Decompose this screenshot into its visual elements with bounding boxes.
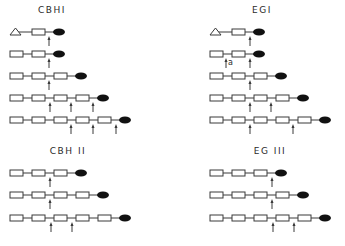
oligomer-row [210, 95, 309, 113]
glucose-unit-box [210, 95, 223, 101]
arrow-head [49, 177, 52, 181]
oligomer-row [10, 73, 87, 91]
glucose-unit-box [54, 170, 67, 176]
glucose-unit-box [254, 95, 267, 101]
oligomer-row [10, 95, 109, 113]
glucose-unit-box [32, 192, 45, 198]
glucose-unit-box [210, 170, 223, 176]
oligomer-row [210, 192, 309, 210]
arrow-head [272, 222, 275, 226]
panel-title: EGI [252, 5, 272, 15]
glucose-unit-box [276, 117, 289, 123]
arrow-head [293, 222, 296, 226]
cleavage-arrow-icon [70, 102, 73, 112]
arrow-head [70, 102, 73, 106]
panel-eg1 [210, 28, 331, 134]
glucose-unit-box [10, 215, 23, 221]
arrow-head [70, 124, 73, 128]
glucose-unit-box [210, 192, 223, 198]
cellulase-cleavage-diagram [0, 0, 345, 246]
oligomer-row [10, 117, 131, 135]
glucose-unit-box [76, 95, 89, 101]
cleavage-arrow-icon [92, 102, 95, 112]
arrow-head [249, 124, 252, 128]
cleavage-arrow-icon [50, 222, 53, 232]
reducing-end-icon [275, 73, 287, 80]
arrow-label: a [228, 58, 233, 67]
glucose-unit-box [10, 192, 23, 198]
reducing-end-icon [253, 29, 265, 36]
arrow-head [50, 222, 53, 226]
reducing-end-icon [53, 29, 65, 36]
oligomer-row [210, 170, 287, 188]
reducing-end-icon [297, 192, 309, 199]
glucose-unit-box [298, 215, 311, 221]
glucose-unit-box [10, 73, 23, 79]
glucose-unit-box [10, 95, 23, 101]
glucose-unit-box [54, 215, 67, 221]
glucose-unit-box [210, 51, 223, 57]
panel-eg3 [210, 170, 331, 233]
glucose-unit-box [276, 192, 289, 198]
reducing-end-icon [297, 95, 309, 102]
glucose-unit-box [254, 215, 267, 221]
cleavage-arrow-icon [249, 58, 252, 68]
glucose-unit-box [10, 51, 23, 57]
cleavage-arrow-icon [49, 199, 52, 209]
cleavage-arrow-icon [271, 177, 274, 187]
reducing-end-icon [53, 51, 65, 58]
reducing-end-icon [75, 73, 87, 80]
arrow-head [292, 124, 295, 128]
cleavage-arrow-icon [249, 124, 252, 134]
oligomer-row [210, 28, 265, 46]
glucose-unit-box [210, 215, 223, 221]
reducing-end-icon [253, 51, 265, 58]
cleavage-arrow-icon [71, 222, 74, 232]
oligomer-row [10, 192, 109, 210]
glucose-unit-box [98, 215, 111, 221]
panel-title: CBHI [38, 5, 66, 15]
cleavage-arrow-icon [270, 102, 273, 112]
cleavage-arrow-icon [115, 124, 118, 134]
oligomer-row [210, 117, 331, 135]
glucose-unit-box [32, 117, 45, 123]
arrow-head [249, 58, 252, 62]
cleavage-arrow-icon [249, 102, 252, 112]
glucose-unit-box [210, 73, 223, 79]
cleavage-arrow-icon [292, 124, 295, 134]
arrow-head [49, 102, 52, 106]
glucose-unit-box [254, 73, 267, 79]
glucose-unit-box [54, 73, 67, 79]
cleavage-arrow-icon [249, 80, 252, 90]
reducing-end-icon [75, 170, 87, 177]
arrow-head [249, 80, 252, 84]
glucose-unit-box [32, 170, 45, 176]
arrow-head [271, 199, 274, 203]
arrow-head [270, 102, 273, 106]
arrow-head [249, 36, 252, 40]
glucose-unit-box [98, 117, 111, 123]
glucose-unit-box [254, 117, 267, 123]
glucose-unit-box [254, 170, 267, 176]
arrow-head [48, 80, 51, 84]
glucose-unit-box [32, 215, 45, 221]
arrow-head [92, 102, 95, 106]
panel-cbh2 [10, 170, 131, 233]
arrow-head [271, 177, 274, 181]
reducing-end-icon [319, 215, 331, 222]
cleavage-arrow-icon [48, 36, 51, 46]
glucose-unit-box [232, 51, 245, 57]
glucose-unit-box [54, 117, 67, 123]
panel-title: CBH II [50, 146, 86, 156]
glucose-unit-box [54, 95, 67, 101]
cleavage-arrow-icon [49, 102, 52, 112]
glucose-unit-box [232, 170, 245, 176]
glucose-unit-box [32, 51, 45, 57]
glucose-unit-box [232, 215, 245, 221]
glucose-unit-box [276, 95, 289, 101]
reducing-end-icon [119, 117, 131, 124]
oligomer-row [210, 73, 287, 91]
oligomer-row [10, 170, 87, 188]
arrow-head [71, 222, 74, 226]
glucose-unit-box [54, 192, 67, 198]
